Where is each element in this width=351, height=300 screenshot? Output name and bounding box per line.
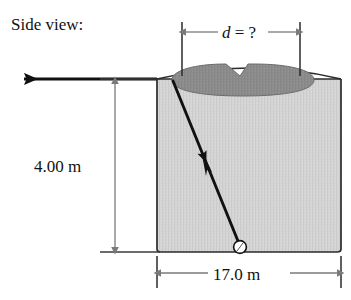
dimension-bottom-width: 17.0 m (157, 256, 341, 288)
tank-body-fill (157, 79, 341, 252)
dim-bottom-label: 17.0 m (213, 265, 260, 284)
diagram-canvas: Side view: (0, 0, 351, 300)
dimension-left-depth: 4.00 m (34, 79, 160, 252)
dim-top-relation: = ? (231, 23, 257, 42)
physics-diagram-figure: Side view: (0, 0, 351, 300)
dim-left-label: 4.00 m (34, 157, 81, 176)
dim-top-label: d = ? (222, 23, 256, 42)
point-light-source (234, 241, 247, 254)
side-view-label: Side view: (11, 15, 83, 34)
